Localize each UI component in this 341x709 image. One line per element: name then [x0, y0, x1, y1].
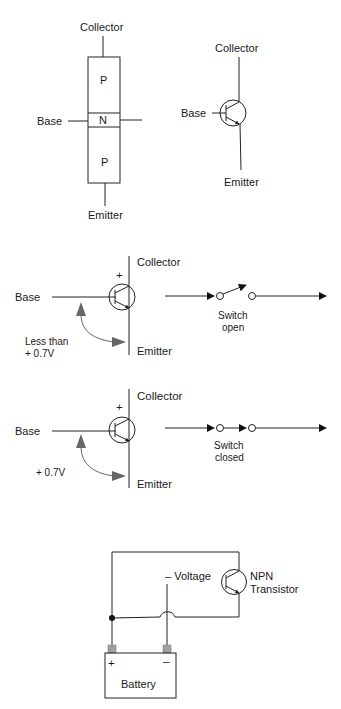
open-collector-label: Collector [137, 256, 181, 268]
pnp-collector-label: Collector [80, 21, 124, 33]
collector-branch [226, 102, 239, 109]
switch-contact-left [217, 425, 224, 432]
switch-contact-right [249, 425, 256, 432]
collector-branch [115, 419, 129, 426]
pnp-structure-diagram: Collector P N P Base Emitter [37, 21, 142, 221]
arc-arrowhead-right [112, 471, 126, 481]
npn-label-line1: NPN [250, 570, 273, 582]
npn-label-line2: Transistor [250, 583, 299, 595]
switch-closed-diagram: Collector + Base + 0.7V Emitter Switch c… [15, 389, 326, 490]
collector-branch [115, 286, 129, 293]
switch-open-label-line1: Switch [218, 310, 247, 321]
open-base-label: Base [15, 291, 40, 303]
switch-contact-right [249, 293, 256, 300]
switch-open-label-line2: open [222, 322, 244, 333]
voltage-label: – Voltage [165, 570, 211, 582]
emitter-branch [226, 117, 239, 124]
battery-label: Battery [121, 678, 156, 690]
voltage-arc [81, 448, 114, 476]
arc-arrowhead-up [76, 434, 86, 448]
open-voltage-line1: Less than [25, 336, 68, 347]
emitter-branch [226, 586, 239, 593]
symbol-emitter-label: Emitter [224, 176, 259, 188]
top-wire [112, 552, 239, 618]
symbol-base-label: Base [181, 107, 206, 119]
open-polarity: + [116, 269, 123, 281]
layer-p-bottom: P [101, 156, 108, 168]
symbol-collector-label: Collector [215, 42, 259, 54]
positive-terminal-post [108, 645, 116, 653]
transistor-symbol-diagram: Collector Base Emitter [181, 42, 259, 188]
switch-contact-left [217, 293, 224, 300]
closed-emitter-label: Emitter [137, 478, 172, 490]
positive-sign: + [108, 657, 115, 669]
transistor-icon [109, 417, 135, 443]
negative-sign: – [163, 655, 170, 667]
symbol-emitter-lead [240, 124, 241, 170]
open-emitter-label: Emitter [137, 345, 172, 357]
closed-voltage-label: + 0.7V [36, 467, 66, 478]
closed-polarity: + [116, 401, 123, 413]
switch-closed-label-line2: closed [215, 452, 244, 463]
arc-arrowhead-right [112, 337, 126, 347]
collector-branch [226, 571, 239, 578]
open-voltage-line2: + 0.7V [25, 348, 55, 359]
pnp-base-label: Base [37, 115, 62, 127]
negative-terminal-post [163, 645, 171, 653]
switch-lever-open[interactable] [223, 285, 246, 294]
bottom-wire [112, 617, 160, 618]
layer-n: N [99, 114, 107, 126]
closed-base-label: Base [15, 425, 40, 437]
layer-p-top: P [100, 74, 107, 86]
switch-open-diagram: Collector + Base Less than + 0.7V Emitte… [15, 256, 326, 359]
right-wire [175, 593, 239, 617]
emitter-branch [115, 434, 129, 441]
emitter-branch [115, 301, 129, 308]
closed-collector-label: Collector [137, 390, 183, 402]
pnp-emitter-label: Emitter [88, 209, 123, 221]
arc-arrowhead-up [76, 302, 86, 316]
battery-circuit-diagram: – Voltage NPN Transistor + – Battery [105, 552, 299, 698]
voltage-arc [81, 316, 114, 342]
switch-closed-label-line1: Switch [214, 440, 243, 451]
